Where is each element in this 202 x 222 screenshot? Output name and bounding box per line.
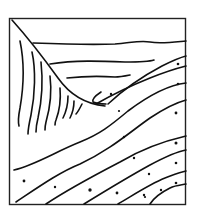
illustration-canvas — [0, 0, 202, 222]
sediment-dots — [23, 63, 180, 198]
vertical-hatching — [18, 41, 82, 134]
dipping-layers — [14, 56, 186, 204]
strata-drawing — [0, 0, 202, 222]
